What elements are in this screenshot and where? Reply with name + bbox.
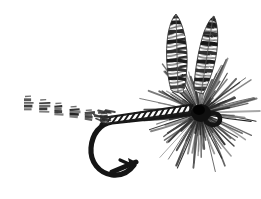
dry-fly-illustration: Dry Fly Pattern [0, 0, 261, 199]
tail-fiber [85, 115, 92, 116]
fly-illustration-canvas [0, 0, 261, 199]
head-core [193, 105, 205, 115]
tail-fiber [85, 112, 95, 113]
tail-fiber [54, 114, 63, 115]
tail-fiber [70, 116, 78, 117]
tail-fiber [98, 111, 104, 112]
head [191, 104, 211, 122]
tail-fiber [54, 106, 62, 107]
tail-fiber [103, 119, 110, 120]
tail-fiber [70, 109, 80, 110]
tail-fiber [85, 119, 92, 120]
